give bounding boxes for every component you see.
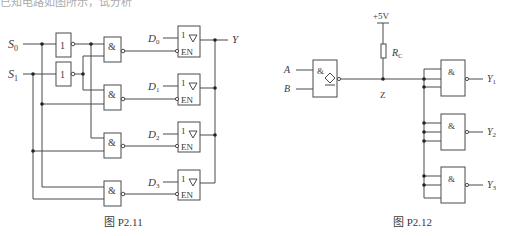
svg-text:&: & (448, 174, 455, 184)
input-label-s1: S1 (8, 67, 18, 83)
tristate-buffer-d0: D0 1 EN (147, 26, 215, 57)
tristate-buffer-d3: D3 1 EN (147, 170, 215, 200)
svg-text:Y1: Y1 (487, 73, 497, 86)
svg-text:&: & (448, 67, 455, 77)
nand-gate-y3: & Y3 (422, 167, 496, 203)
open-collector-nand-gate: & (313, 60, 341, 97)
circuit-diagrams: S0 S1 1 1 (0, 0, 505, 236)
svg-text:EN: EN (181, 190, 193, 200)
svg-text:D1: D1 (147, 80, 160, 94)
and-gate-3: & (104, 133, 176, 158)
figure-caption-p2-11: 图 P2.11 (104, 216, 143, 228)
svg-text:&: & (108, 89, 116, 100)
svg-text:D2: D2 (147, 128, 160, 142)
input-label-s0: S0 (8, 37, 18, 53)
svg-text:D0: D0 (147, 32, 160, 46)
and-gate-1: & (104, 37, 176, 62)
resistor-label: RC (391, 47, 403, 60)
resistor-rc (381, 44, 386, 58)
nand-gate-y1: & Y1 (422, 60, 496, 96)
svg-text:1: 1 (181, 126, 186, 136)
input-label-b: B (284, 83, 290, 94)
tristate-buffer-d2: D2 1 EN (147, 122, 215, 152)
svg-text:1: 1 (181, 174, 186, 184)
figure-p2-11: S0 S1 1 1 (8, 26, 240, 228)
svg-text:1: 1 (60, 69, 65, 80)
output-label-y: Y (232, 33, 240, 45)
svg-text:Y3: Y3 (487, 179, 497, 192)
svg-text:Y2: Y2 (487, 126, 497, 139)
svg-text:EN: EN (181, 142, 193, 152)
svg-text:&: & (317, 66, 324, 76)
svg-text:EN: EN (181, 95, 193, 105)
input-label-a: A (283, 64, 291, 75)
svg-text:&: & (108, 185, 116, 196)
and-gate-2: & (104, 85, 176, 110)
supply-label: +5V (373, 11, 390, 21)
figure-caption-p2-12: 图 P2.12 (393, 216, 432, 228)
and-gate-4: & (104, 181, 176, 206)
tristate-buffer-d1: D1 1 EN (147, 74, 215, 105)
node-label-z: Z (380, 90, 386, 100)
svg-text:&: & (448, 121, 455, 131)
svg-text:1: 1 (181, 30, 186, 40)
svg-text:&: & (108, 137, 116, 148)
nand-gate-y2: & Y2 (422, 114, 496, 150)
svg-text:D3: D3 (147, 176, 160, 190)
svg-text:1: 1 (181, 78, 186, 88)
svg-text:1: 1 (60, 40, 65, 51)
svg-text:EN: EN (181, 47, 193, 57)
figure-p2-12: +5V RC A B & Z (283, 11, 497, 228)
svg-text:&: & (108, 41, 116, 52)
